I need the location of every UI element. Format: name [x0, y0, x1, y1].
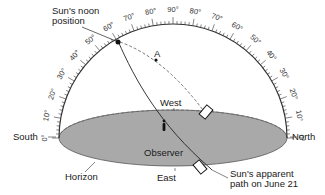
north-label: North: [292, 132, 315, 142]
svg-text:80°: 80°: [189, 6, 202, 17]
svg-text:50°: 50°: [248, 32, 262, 46]
observer-figure: [163, 120, 166, 131]
horizon-label: Horizon: [65, 172, 98, 182]
point-a-label: A: [154, 49, 160, 59]
svg-text:20°: 20°: [46, 87, 58, 101]
svg-text:40°: 40°: [264, 48, 278, 62]
south-label: South: [13, 132, 38, 142]
svg-text:10°: 10°: [41, 109, 52, 122]
svg-text:30°: 30°: [278, 67, 291, 81]
svg-text:30°: 30°: [55, 67, 68, 81]
svg-text:60°: 60°: [230, 20, 244, 33]
noon-label: Sun's noon position: [52, 6, 99, 26]
sun-path-label: Sun's apparent path on June 21: [230, 169, 298, 189]
sun-noon-dot: [116, 40, 121, 45]
svg-text:20°: 20°: [288, 87, 300, 101]
svg-text:70°: 70°: [210, 11, 224, 23]
svg-text:60°: 60°: [102, 20, 116, 33]
svg-text:40°: 40°: [67, 48, 81, 62]
svg-text:50°: 50°: [83, 32, 97, 46]
east-label: East: [157, 173, 176, 183]
svg-text:80°: 80°: [144, 6, 157, 17]
observer-label: Observer: [144, 148, 183, 158]
svg-text:70°: 70°: [122, 11, 136, 23]
svg-text:10°: 10°: [294, 109, 305, 122]
svg-text:90°: 90°: [167, 5, 178, 14]
west-label: West: [160, 98, 181, 108]
svg-text:0°: 0°: [40, 134, 49, 141]
